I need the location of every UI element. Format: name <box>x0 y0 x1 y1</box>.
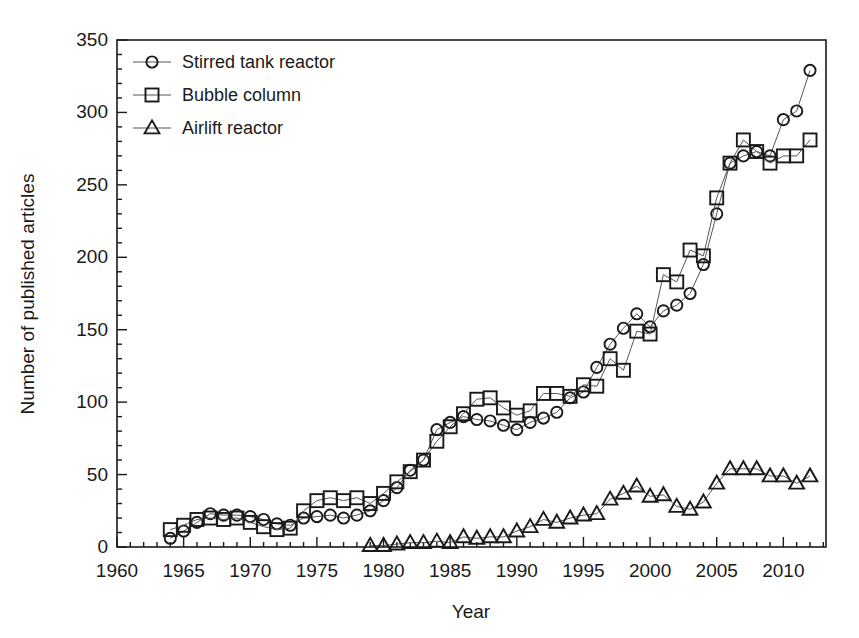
triangle-marker <box>603 492 618 505</box>
y-tick-label: 0 <box>97 536 108 557</box>
series-bubble-column <box>164 133 817 536</box>
x-tick-label: 1980 <box>362 560 404 581</box>
publications-chart: 1960196519701975198019851990199520002005… <box>0 0 859 638</box>
plot-frame <box>117 40 826 547</box>
legend-item-airlift-reactor: Airlift reactor <box>133 118 283 138</box>
y-tick-label: 50 <box>87 464 108 485</box>
triangle-marker <box>509 523 524 536</box>
x-tick-label: 1975 <box>296 560 338 581</box>
x-tick-label: 2000 <box>629 560 671 581</box>
y-tick-label: 100 <box>76 391 108 412</box>
x-tick-label: 1995 <box>562 560 604 581</box>
triangle-marker <box>456 529 471 542</box>
y-tick-label: 150 <box>76 319 108 340</box>
bubble-column-line <box>170 140 810 530</box>
y-axis-title: Number of published articles <box>17 174 38 415</box>
y-tick-label: 200 <box>76 246 108 267</box>
x-tick-label: 1970 <box>229 560 271 581</box>
plot-area: 1960196519701975198019851990199520002005… <box>76 29 826 581</box>
x-tick-label: 1990 <box>496 560 538 581</box>
triangle-marker <box>803 468 818 481</box>
triangle-marker <box>749 461 764 474</box>
legend-label: Stirred tank reactor <box>182 52 335 72</box>
x-tick-label: 2005 <box>696 560 738 581</box>
legend-label: Airlift reactor <box>182 118 283 138</box>
triangle-marker <box>656 487 671 500</box>
x-tick-label: 1965 <box>162 560 204 581</box>
y-tick-label: 350 <box>76 29 108 50</box>
legend-label: Bubble column <box>182 85 301 105</box>
triangle-marker <box>483 529 498 542</box>
triangle-marker <box>776 468 791 481</box>
series-airlift-reactor <box>363 461 818 551</box>
triangle-marker <box>736 461 751 474</box>
y-tick-label: 300 <box>76 101 108 122</box>
x-tick-label: 1985 <box>429 560 471 581</box>
figure: 1960196519701975198019851990199520002005… <box>0 0 859 638</box>
square-marker <box>804 133 817 146</box>
triangle-marker <box>536 512 551 525</box>
triangle-icon <box>145 120 160 133</box>
legend-item-bubble-column: Bubble column <box>133 85 301 105</box>
triangle-marker <box>696 494 711 507</box>
x-axis-title: Year <box>452 601 491 622</box>
y-tick-label: 250 <box>76 174 108 195</box>
x-tick-label: 2010 <box>762 560 804 581</box>
triangle-marker <box>723 461 738 474</box>
x-tick-label: 1960 <box>96 560 138 581</box>
stirred-tank-reactor-line <box>170 70 810 538</box>
triangle-marker <box>496 529 511 542</box>
legend-item-stirred-tank-reactor: Stirred tank reactor <box>133 52 335 72</box>
legend: Stirred tank reactorBubble columnAirlift… <box>133 52 335 138</box>
